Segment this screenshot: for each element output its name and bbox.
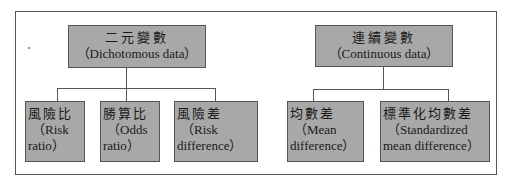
risk-ratio-zh: 風險比 xyxy=(28,106,84,122)
odds-ratio-en1: （Odds xyxy=(103,122,159,138)
risk-difference-en1: （Risk xyxy=(177,122,257,138)
odds-ratio-zh: 勝算比 xyxy=(103,106,159,122)
smd-zh: 標準化均數差 xyxy=(383,106,489,122)
mean-difference-en1: （Mean xyxy=(290,122,363,138)
standardized-mean-difference-box: 標準化均數差 （Standardized mean difference） xyxy=(380,101,490,162)
connector xyxy=(313,89,449,90)
continuous-title-en: （Continuous data） xyxy=(316,46,452,62)
mean-difference-zh: 均數差 xyxy=(290,106,363,122)
connector xyxy=(448,89,449,101)
risk-difference-zh: 風險差 xyxy=(177,106,257,122)
continuous-title-zh: 連續變數 xyxy=(316,30,452,46)
odds-ratio-box: 勝算比 （Odds ratio） xyxy=(100,101,160,162)
dichotomous-title-zh: 二元變數 xyxy=(69,30,205,46)
dichotomous-data-box: 二元變數 （Dichotomous data） xyxy=(68,25,206,68)
stray-mark xyxy=(28,47,30,49)
connector xyxy=(57,88,58,101)
connector xyxy=(383,66,384,89)
dichotomous-title-en: （Dichotomous data） xyxy=(69,46,205,62)
risk-ratio-box: 風險比 （Risk ratio） xyxy=(25,101,85,162)
continuous-data-box: 連續變數 （Continuous data） xyxy=(315,25,453,67)
risk-ratio-en2: ratio） xyxy=(28,138,84,154)
risk-ratio-en1: （Risk xyxy=(28,122,84,138)
connector xyxy=(313,89,314,101)
smd-en1: （Standardized xyxy=(383,122,489,138)
risk-difference-box: 風險差 （Risk difference） xyxy=(174,101,258,162)
risk-difference-en2: difference） xyxy=(177,138,257,154)
connector xyxy=(57,88,216,89)
connector xyxy=(126,88,127,101)
odds-ratio-en2: ratio） xyxy=(103,138,159,154)
connector xyxy=(215,88,216,101)
smd-en2: mean difference） xyxy=(383,138,489,154)
connector xyxy=(126,67,127,89)
mean-difference-box: 均數差 （Mean difference） xyxy=(287,101,364,162)
mean-difference-en2: difference） xyxy=(290,138,363,154)
